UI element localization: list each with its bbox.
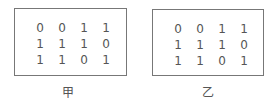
matrix-row: 0 0 1 1 — [173, 21, 249, 37]
matrix-cell: 1 — [79, 20, 89, 36]
matrix-row: 1 1 1 0 — [35, 36, 111, 52]
matrix-row: 1 1 1 0 — [173, 37, 249, 53]
matrix-cell: 1 — [173, 37, 183, 53]
figure-label-jia: 甲 — [53, 83, 83, 100]
matrix-cell: 1 — [239, 53, 249, 69]
matrix-grid: 0 0 1 1 1 1 1 0 1 1 0 1 — [173, 21, 249, 69]
matrix-cell: 1 — [35, 36, 45, 52]
matrix-cell: 1 — [79, 36, 89, 52]
matrix-cell: 1 — [195, 37, 205, 53]
matrix-cell: 1 — [239, 21, 249, 37]
matrix-cell: 1 — [173, 53, 183, 69]
matrix-cell: 0 — [101, 36, 111, 52]
matrix-cell: 1 — [57, 52, 67, 68]
matrix-grid: 0 0 1 1 1 1 1 0 1 1 0 1 — [35, 20, 111, 68]
matrix-cell: 0 — [57, 20, 67, 36]
matrix-cell: 1 — [57, 36, 67, 52]
matrix-cell: 1 — [35, 52, 45, 68]
matrix-box-jia: 0 0 1 1 1 1 1 0 1 1 0 1 — [14, 8, 127, 76]
matrix-row: 0 0 1 1 — [35, 20, 111, 36]
matrix-cell: 0 — [35, 20, 45, 36]
figure-label-yi: 乙 — [193, 83, 223, 100]
matrix-row: 1 1 0 1 — [173, 53, 249, 69]
matrix-cell: 1 — [217, 21, 227, 37]
matrix-cell: 0 — [79, 52, 89, 68]
matrix-cell: 0 — [195, 21, 205, 37]
matrix-cell: 0 — [217, 53, 227, 69]
matrix-row: 1 1 0 1 — [35, 52, 111, 68]
matrix-cell: 1 — [195, 53, 205, 69]
matrix-cell: 1 — [217, 37, 227, 53]
matrix-cell: 0 — [173, 21, 183, 37]
matrix-cell: 0 — [239, 37, 249, 53]
matrix-cell: 1 — [101, 52, 111, 68]
matrix-box-yi: 0 0 1 1 1 1 1 0 1 1 0 1 — [152, 9, 264, 76]
matrix-cell: 1 — [101, 20, 111, 36]
